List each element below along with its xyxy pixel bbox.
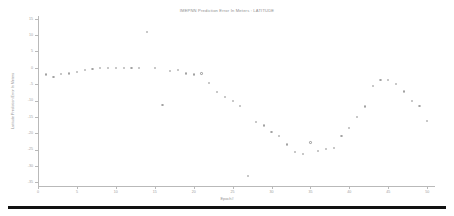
y-tick-label: -15 bbox=[28, 115, 33, 120]
y-tick-label: -20 bbox=[28, 131, 33, 136]
data-point bbox=[177, 69, 179, 71]
data-point bbox=[333, 147, 335, 149]
data-point bbox=[348, 127, 350, 129]
data-point bbox=[216, 91, 218, 93]
x-tick-mark bbox=[349, 186, 350, 189]
data-point bbox=[99, 67, 101, 69]
x-tick-label: 15 bbox=[153, 190, 157, 195]
data-point bbox=[130, 67, 132, 69]
x-tick-label: 5 bbox=[76, 190, 78, 195]
plot-area bbox=[38, 16, 435, 186]
data-point bbox=[403, 90, 405, 92]
data-point bbox=[208, 82, 210, 84]
x-tick-label: 0 bbox=[37, 190, 39, 195]
data-point bbox=[278, 135, 280, 137]
data-point bbox=[325, 148, 327, 150]
x-tick-mark bbox=[38, 186, 39, 189]
y-tick-label: -35 bbox=[28, 180, 33, 185]
data-point bbox=[146, 31, 148, 33]
data-point bbox=[84, 69, 86, 71]
chart-title: IMEPNN Prediction Error In Meters : LATI… bbox=[0, 8, 454, 13]
data-point bbox=[294, 151, 296, 153]
y-tick-label: 15 bbox=[29, 17, 33, 22]
data-point bbox=[91, 68, 93, 70]
data-point bbox=[115, 67, 117, 69]
y-tick-label: 0 bbox=[31, 66, 33, 71]
y-tick-label: 5 bbox=[31, 49, 33, 54]
x-tick-label: 25 bbox=[231, 190, 235, 195]
x-tick-mark bbox=[272, 186, 273, 189]
data-point bbox=[200, 72, 202, 74]
data-point bbox=[340, 135, 342, 137]
data-point bbox=[309, 141, 311, 143]
y-tick-label: -10 bbox=[28, 98, 33, 103]
data-point bbox=[45, 73, 47, 75]
data-point bbox=[107, 67, 109, 69]
x-tick-label: 40 bbox=[347, 190, 351, 195]
data-point bbox=[387, 79, 389, 81]
data-point bbox=[286, 143, 288, 145]
data-point bbox=[68, 72, 70, 74]
x-axis-label: Epoch# bbox=[0, 196, 454, 201]
data-point bbox=[372, 85, 374, 87]
y-tick-label: 10 bbox=[29, 33, 33, 38]
x-tick-label: 30 bbox=[270, 190, 274, 195]
x-axis-line bbox=[38, 186, 435, 187]
x-tick-label: 35 bbox=[308, 190, 312, 195]
bottom-black-bar bbox=[8, 206, 446, 209]
data-point bbox=[263, 124, 265, 126]
data-point bbox=[123, 67, 125, 69]
data-point bbox=[169, 70, 171, 72]
data-point bbox=[395, 83, 397, 85]
x-tick-mark bbox=[116, 186, 117, 189]
data-point bbox=[418, 105, 420, 107]
x-tick-label: 50 bbox=[425, 190, 429, 195]
data-point bbox=[255, 121, 257, 123]
data-point bbox=[364, 105, 366, 107]
data-point bbox=[379, 79, 381, 81]
y-tick-label: -5 bbox=[30, 82, 33, 87]
x-tick-mark bbox=[194, 186, 195, 189]
data-point bbox=[76, 71, 78, 73]
data-point bbox=[161, 104, 163, 106]
data-point bbox=[193, 73, 195, 75]
data-point bbox=[60, 73, 62, 75]
data-point bbox=[247, 175, 249, 177]
x-tick-mark bbox=[155, 186, 156, 189]
x-tick-mark bbox=[77, 186, 78, 189]
data-point bbox=[138, 67, 140, 69]
data-point bbox=[426, 120, 428, 122]
x-tick-label: 45 bbox=[386, 190, 390, 195]
data-point bbox=[232, 100, 234, 102]
x-tick-mark bbox=[310, 186, 311, 189]
x-tick-label: 20 bbox=[192, 190, 196, 195]
data-point bbox=[52, 76, 54, 78]
x-tick-label: 10 bbox=[114, 190, 118, 195]
y-tick-label: -25 bbox=[28, 147, 33, 152]
data-point bbox=[224, 96, 226, 98]
x-tick-mark bbox=[427, 186, 428, 189]
y-axis-label: Latitude Prediction Error In Meters bbox=[11, 73, 15, 129]
data-point bbox=[154, 67, 156, 69]
y-tick-label: -30 bbox=[28, 164, 33, 169]
chart-figure: IMEPNN Prediction Error In Meters : LATI… bbox=[0, 0, 454, 216]
data-point bbox=[270, 131, 272, 133]
data-point bbox=[302, 153, 304, 155]
data-point bbox=[239, 105, 241, 107]
x-tick-mark bbox=[233, 186, 234, 189]
data-point bbox=[317, 150, 319, 152]
data-point bbox=[411, 100, 413, 102]
data-point bbox=[356, 116, 358, 118]
x-tick-mark bbox=[388, 186, 389, 189]
data-point bbox=[185, 72, 187, 74]
